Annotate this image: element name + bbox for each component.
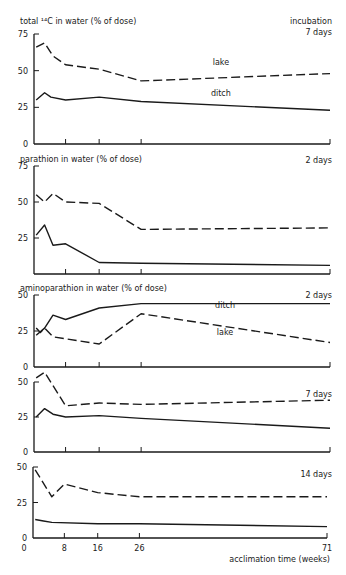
panel-4-incubation-days: 7 days (305, 390, 332, 399)
panel-2-series-ditch (36, 225, 330, 265)
x-tick-label: 26 (134, 544, 144, 553)
panel-3-label-lake: lake (217, 328, 233, 337)
panel-3-y-tick-label: 25 (18, 327, 28, 336)
panel-5-incubation-days: 14 days (300, 470, 332, 479)
panel-2-y-tick-label: 25 (18, 234, 28, 243)
panel-1-y-tick-label: 25 (18, 103, 28, 112)
panel-4-y-tick-label: 50 (18, 378, 28, 387)
panel-5-y-tick-label: 50 (17, 463, 27, 472)
panel-1-incubation-days: 7 days (305, 28, 332, 37)
figure: 0255075total ¹⁴C in water (% of dose)inc… (0, 0, 346, 575)
panel-1-label-lake: lake (213, 58, 229, 67)
panel-1-y-tick-label: 50 (18, 67, 28, 76)
panel-3-incubation-days: 2 days (305, 291, 332, 300)
panel-5-series-ditch (35, 520, 327, 527)
panel-4-series-ditch (36, 409, 330, 429)
x-tick-label: 16 (93, 544, 103, 553)
x-tick-label: 8 (62, 544, 67, 553)
panel-1-y-tick-label: 75 (18, 30, 28, 39)
panel-2-incubation-days: 2 days (305, 156, 332, 165)
panel-3-y-tick-label: 0 (23, 363, 28, 372)
panel-2-series-lake (36, 193, 330, 229)
panel-5-series-lake (35, 470, 327, 497)
panel-2-title: parathion in water (% of dose) (20, 155, 142, 164)
x-axis-label: acclimation time (weeks) (229, 555, 330, 564)
panel-3-label-ditch: ditch (215, 301, 235, 310)
x-tick-label: 71 (322, 544, 332, 553)
incubation-label: incubation (290, 17, 332, 26)
panel-1-y-tick-label: 0 (23, 140, 28, 149)
panel-5-y-tick-label: 25 (17, 499, 27, 508)
panel-4-y-tick-label: 0 (23, 448, 28, 457)
panel-3-series-lake (36, 314, 330, 344)
panel-1-label-ditch: ditch (211, 89, 231, 98)
panel-4-series-lake (36, 372, 330, 406)
panel-1-title: total ¹⁴C in water (% of dose) (20, 17, 136, 26)
x-tick-label: 0 (21, 544, 26, 553)
panel-3-title: aminoparathion in water (% of dose) (20, 284, 167, 293)
panel-2-y-tick-label: 50 (18, 198, 28, 207)
panel-5-y-tick-label: 0 (22, 534, 27, 543)
panel-4-y-tick-label: 25 (18, 413, 28, 422)
panel-1-series-ditch (36, 93, 330, 111)
panel-1-series-lake (36, 43, 330, 81)
